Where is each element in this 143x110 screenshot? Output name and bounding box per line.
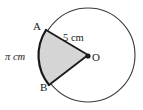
center-point-marker [85, 53, 90, 58]
label-point-a: A [33, 21, 41, 32]
label-center-o: O [92, 52, 100, 63]
label-point-b: B [40, 82, 47, 93]
geometry-figure: A B O 5 cm π cm [0, 0, 143, 110]
label-radius-measure: 5 cm [63, 33, 84, 44]
label-arc-measure: π cm [5, 52, 25, 63]
